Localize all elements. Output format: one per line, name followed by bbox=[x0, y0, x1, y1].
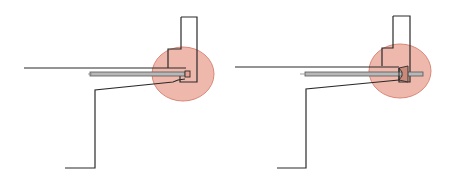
diagram-canvas bbox=[0, 0, 449, 182]
panel-right bbox=[235, 16, 431, 168]
panel-left bbox=[24, 17, 214, 168]
bolt-head-left bbox=[185, 71, 190, 77]
highlight-ellipse-right bbox=[369, 44, 431, 98]
rod-left bbox=[90, 72, 185, 76]
slab-bottom-line-right bbox=[277, 80, 399, 168]
